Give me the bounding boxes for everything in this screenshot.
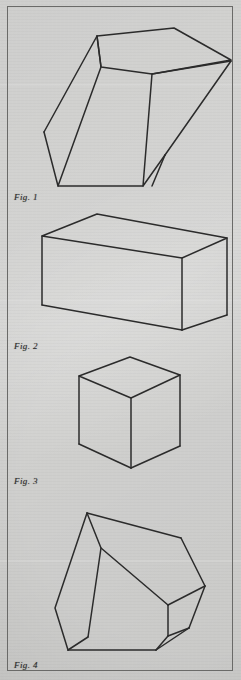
figure-3-caption: Fig. 3 xyxy=(14,476,38,486)
figure-3-caption-text: Fig. 3 xyxy=(14,476,38,486)
figure-4-outer-left xyxy=(55,513,87,650)
figure-4-inner-ridge xyxy=(87,513,101,637)
figure-1-caption: Fig. 1 xyxy=(14,192,38,202)
figure-1-left-back-edge xyxy=(44,36,97,132)
figure-4-caption-text: Fig. 4 xyxy=(14,660,38,670)
figures-drawing-canvas xyxy=(0,0,241,680)
figure-4-caption: Fig. 4 xyxy=(14,660,38,670)
figure-3-bottom-left-edge xyxy=(79,444,131,468)
figure-2-bottom-right-edge xyxy=(182,315,227,330)
figure-4-drawing xyxy=(55,513,205,650)
figure-1-top-face xyxy=(97,28,231,74)
figure-2-caption: Fig. 2 xyxy=(14,341,38,351)
figure-3-bottom-right-edge xyxy=(131,446,180,468)
figure-1-right-inner-edge xyxy=(152,61,231,74)
figure-3-drawing xyxy=(79,357,180,468)
figure-4-inner-face-top xyxy=(101,548,168,605)
figure-1-drawing xyxy=(44,28,231,186)
figure-2-bottom-left-edge xyxy=(42,305,182,330)
figure-1-caption-text: Fig. 1 xyxy=(14,192,38,202)
figure-1-right-body xyxy=(143,74,165,186)
figure-4-right-to-bottom xyxy=(156,628,189,650)
figure-2-drawing xyxy=(42,214,227,330)
figure-4-upper-right-edge xyxy=(87,513,181,538)
figure-4-front-bottom-left xyxy=(68,637,88,650)
figure-1-left-body xyxy=(44,36,101,186)
figure-3-top-face xyxy=(79,357,180,398)
figure-2-top-face xyxy=(42,214,227,258)
figure-1-right-back-edge xyxy=(165,61,231,155)
figure-4-right-upper-slope xyxy=(181,538,205,586)
figure-2-caption-text: Fig. 2 xyxy=(14,341,38,351)
